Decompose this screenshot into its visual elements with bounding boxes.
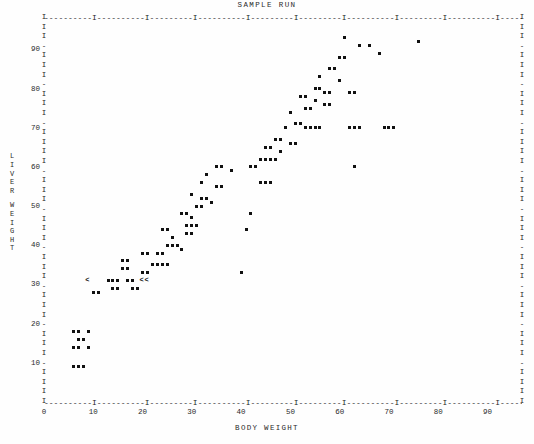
data-point xyxy=(318,87,321,90)
x-axis-title: BODY WEIGHT xyxy=(0,424,534,432)
data-point xyxy=(309,107,312,110)
data-point xyxy=(72,365,75,368)
data-point xyxy=(299,95,302,98)
axis-border-mark: I xyxy=(39,235,49,243)
axis-border-mark: I xyxy=(39,254,49,262)
data-point xyxy=(205,197,208,200)
data-point xyxy=(116,287,119,290)
data-point xyxy=(343,56,346,59)
data-point-offscale: < xyxy=(144,277,148,284)
axis-border-mark: I xyxy=(517,196,527,204)
data-point xyxy=(314,126,317,129)
axis-border-mark: I xyxy=(517,14,527,22)
y-axis-tick-label: 90 xyxy=(18,45,40,53)
axis-border-mark: I xyxy=(517,52,527,60)
data-point xyxy=(156,252,159,255)
data-point xyxy=(180,212,183,215)
data-point xyxy=(294,122,297,125)
data-point xyxy=(333,67,336,70)
axis-border-mark: I xyxy=(39,379,49,387)
plot-area: ----------I----------I---------I--------… xyxy=(44,18,522,402)
axis-border-mark: I xyxy=(39,148,49,156)
data-point xyxy=(200,181,203,184)
axis-border-mark: - xyxy=(517,283,527,291)
axis-border-mark: I xyxy=(517,148,527,156)
axis-border-mark: I xyxy=(39,225,49,233)
axis-border-mark: I xyxy=(517,398,527,406)
data-point xyxy=(245,228,248,231)
axis-border-mark: - xyxy=(39,283,49,291)
axis-border-mark: I xyxy=(39,72,49,80)
data-point xyxy=(116,279,119,282)
data-point xyxy=(171,244,174,247)
axis-border-mark: I xyxy=(517,331,527,339)
data-point xyxy=(338,79,341,82)
axis-border-mark: I xyxy=(517,129,527,137)
axis-border-mark: I xyxy=(517,264,527,272)
data-point xyxy=(279,150,282,153)
y-axis-title-char: G xyxy=(6,227,18,236)
plot-right-border: III-III-III-IIII-III-III-III-III-III-III… xyxy=(517,18,527,402)
axis-border-mark: I xyxy=(39,388,49,396)
data-point xyxy=(97,291,100,294)
axis-border-mark: I xyxy=(517,302,527,310)
data-point xyxy=(220,185,223,188)
data-point xyxy=(190,216,193,219)
axis-border-mark: I xyxy=(39,52,49,60)
axis-border-mark: I xyxy=(517,72,527,80)
data-point xyxy=(353,91,356,94)
data-point xyxy=(72,346,75,349)
data-point xyxy=(136,287,139,290)
data-point xyxy=(111,287,114,290)
axis-border-mark: I xyxy=(517,312,527,320)
axis-border-mark: I xyxy=(39,196,49,204)
data-point xyxy=(151,263,154,266)
axis-border-mark: I xyxy=(39,369,49,377)
x-axis-tick-label: 0 xyxy=(32,408,56,416)
plot-bottom-border: ----------I----------I---------I--------… xyxy=(44,398,522,407)
data-point xyxy=(269,158,272,161)
data-point-offscale: < xyxy=(85,277,89,284)
data-point xyxy=(328,67,331,70)
data-point xyxy=(318,75,321,78)
data-point xyxy=(304,107,307,110)
data-point xyxy=(353,126,356,129)
data-point xyxy=(171,236,174,239)
data-point xyxy=(220,165,223,168)
data-point xyxy=(126,279,129,282)
axis-border-mark: I xyxy=(517,350,527,358)
data-point xyxy=(417,40,420,43)
axis-border-mark: I xyxy=(517,110,527,118)
x-axis-tick-label: 70 xyxy=(377,408,401,416)
data-point xyxy=(353,165,356,168)
data-point xyxy=(328,103,331,106)
data-point xyxy=(77,346,80,349)
data-point xyxy=(195,224,198,227)
axis-border-mark: I xyxy=(517,33,527,41)
axis-border-mark: I xyxy=(39,14,49,22)
data-point xyxy=(72,330,75,333)
data-point xyxy=(348,91,351,94)
axis-border-mark: I xyxy=(39,273,49,281)
data-point xyxy=(358,44,361,47)
data-point xyxy=(180,248,183,251)
y-axis-title-char: V xyxy=(6,170,18,179)
axis-border-mark: I xyxy=(39,292,49,300)
data-point xyxy=(383,126,386,129)
x-axis-tick-label: 80 xyxy=(426,408,450,416)
axis-border-mark: I xyxy=(39,100,49,108)
data-point xyxy=(314,87,317,90)
axis-border-mark: - xyxy=(517,168,527,176)
x-axis-tick-label: 50 xyxy=(278,408,302,416)
data-point xyxy=(210,201,213,204)
data-point xyxy=(87,330,90,333)
data-point xyxy=(358,126,361,129)
axis-border-mark: - xyxy=(39,244,49,252)
data-point xyxy=(166,228,169,231)
axis-border-mark: I xyxy=(517,225,527,233)
data-point xyxy=(314,99,317,102)
data-point xyxy=(249,165,252,168)
axis-border-mark: I xyxy=(517,177,527,185)
data-point xyxy=(392,126,395,129)
x-axis-tick-label: 60 xyxy=(328,408,352,416)
